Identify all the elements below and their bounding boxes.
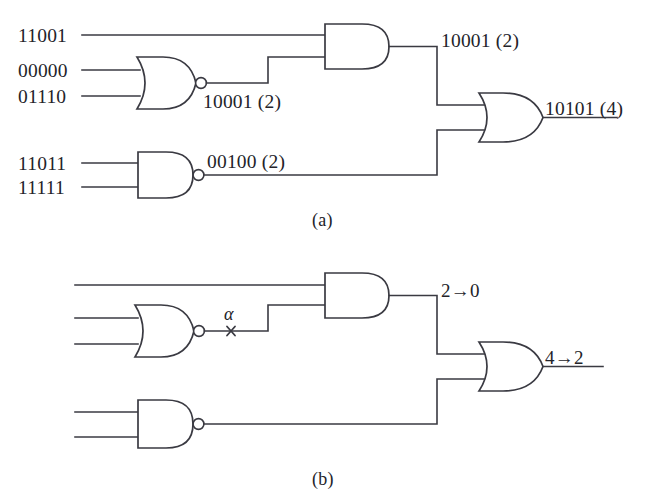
- or-gate-b-body: [479, 342, 543, 391]
- fault-alpha-label: α: [224, 305, 234, 323]
- wire-and-to-or-a: [389, 47, 484, 106]
- panel-a-circuit: [82, 24, 617, 198]
- input-label-a5: 11111: [18, 178, 65, 198]
- nor-gate-a-bubble: [196, 78, 207, 89]
- wire-nor-to-and-a: [207, 57, 326, 83]
- figure-container: 11001 00000 01110 11011 11111 10001 (2) …: [0, 0, 645, 501]
- panel-a-caption: (a): [312, 211, 333, 229]
- input-label-a2: 00000: [18, 61, 68, 81]
- nor-gate-a-body: [137, 57, 196, 109]
- signal-label-or-output-b: 4→2: [545, 348, 584, 367]
- and-gate-b-body: [325, 273, 389, 318]
- signal-label-or-output-a: 10101 (4): [545, 99, 623, 119]
- or-gate-a-body: [479, 93, 543, 142]
- input-label-a1: 11001: [18, 26, 67, 46]
- circuit-drawing: [0, 0, 645, 501]
- signal-label-and-output-b: 2→0: [441, 281, 480, 300]
- and-gate-a-body: [325, 24, 389, 69]
- signal-label-nor-output-a: 10001 (2): [203, 92, 281, 112]
- signal-label-and-output-a: 10001 (2): [441, 31, 519, 51]
- wire-nand-to-or-b: [204, 379, 484, 424]
- nand-gate-b-bubble: [193, 419, 204, 430]
- nor-gate-b-body: [135, 305, 194, 357]
- wire-and-to-or-b: [389, 296, 484, 355]
- nand-gate-a-bubble: [193, 170, 204, 181]
- input-label-a4: 11011: [18, 154, 66, 174]
- nor-gate-b-bubble: [194, 326, 205, 337]
- input-label-a3: 01110: [18, 87, 66, 107]
- panel-b-circuit: [75, 273, 603, 448]
- wire-nor-to-and-b: [205, 305, 326, 331]
- panel-b-caption: (b): [312, 470, 334, 488]
- nand-gate-a-body: [138, 152, 193, 198]
- signal-label-nand-output-a: 00100 (2): [207, 152, 285, 172]
- nand-gate-b-body: [138, 400, 193, 448]
